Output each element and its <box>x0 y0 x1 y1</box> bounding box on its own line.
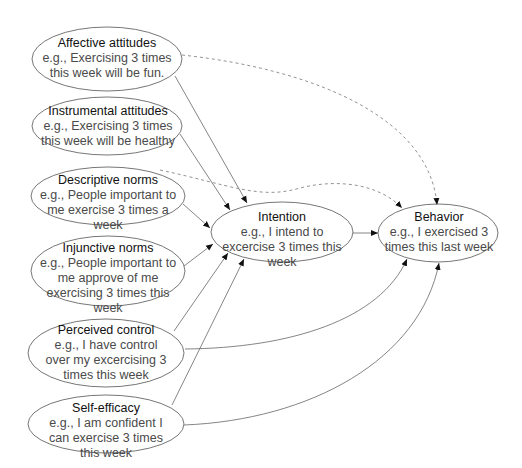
node-descriptive-ellipse <box>31 167 185 225</box>
edge-injunctive-to-intention <box>184 244 213 266</box>
edge-perceived-to-behavior <box>185 259 407 349</box>
node-selfefficacy-ellipse <box>28 395 184 453</box>
edge-selfefficacy-to-intention <box>172 259 244 405</box>
diagram-canvas <box>0 0 522 468</box>
node-intention-ellipse <box>211 202 353 262</box>
node-affective-ellipse <box>32 27 182 91</box>
node-instrumental-ellipse <box>32 97 182 155</box>
edge-perceived-to-intention <box>174 253 228 331</box>
node-injunctive-ellipse <box>31 236 185 306</box>
edge-descriptive-to-intention <box>183 204 210 228</box>
node-behavior-ellipse <box>378 204 498 262</box>
edge-affective-to-behavior-dashed <box>182 55 437 205</box>
node-perceived-ellipse <box>28 319 184 387</box>
edge-selfefficacy-to-behavior <box>184 263 439 425</box>
edge-affective-to-intention <box>175 76 247 203</box>
edge-instrumental-to-intention <box>180 134 230 210</box>
